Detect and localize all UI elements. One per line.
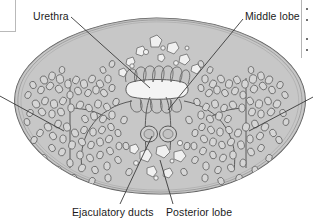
cropped-bullet-dots (305, 0, 313, 60)
label-posterior-lobe: Posterior lobe (166, 206, 232, 218)
label-ejaculatory-ducts: Ejaculatory ducts (72, 206, 154, 218)
prostate-cross-section-figure (0, 0, 313, 220)
figure-page: Urethra Middle lobe Ejaculatory ducts Po… (0, 0, 313, 220)
label-middle-lobe: Middle lobe (245, 10, 300, 22)
label-urethra: Urethra (33, 10, 69, 22)
cropped-panel-divider (301, 0, 302, 58)
